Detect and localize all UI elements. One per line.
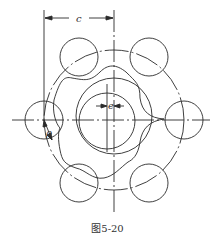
arrow-left-icon	[45, 16, 52, 20]
figure-caption: 图5-20	[0, 220, 215, 235]
roller-top-right	[130, 38, 168, 76]
label-c: c	[76, 13, 82, 24]
label-e: e	[108, 100, 114, 111]
arrow-rho-icon	[43, 120, 47, 127]
label-rho: ρ	[45, 127, 52, 138]
roller-bottom-left	[60, 164, 98, 202]
arrow-e-right-icon	[114, 104, 120, 108]
cycloid-cam-diagram: c e ρ	[0, 0, 215, 237]
roller-top-left	[60, 38, 98, 76]
roller-bottom-right	[130, 164, 168, 202]
arrow-right-icon	[106, 16, 113, 20]
cycloid-profile	[53, 66, 164, 178]
arrow-e-left-icon	[101, 104, 107, 108]
